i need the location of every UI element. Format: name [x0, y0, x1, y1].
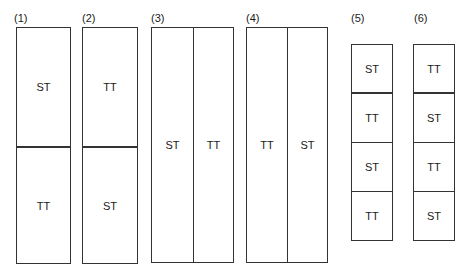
panel-2-cell-bottom: ST: [83, 148, 137, 263]
panel-6: TT ST TT ST: [413, 44, 455, 241]
panel-6-cell-1: TT: [414, 45, 454, 92]
panel-5: ST TT ST TT: [351, 44, 393, 241]
panel-6-cell-2: ST: [414, 94, 454, 142]
panel-4-cell-left: TT: [247, 28, 287, 262]
panel-3-label: (3): [151, 12, 164, 24]
panel-4-label: (4): [246, 12, 259, 24]
panel-3-cell-left: ST: [152, 28, 193, 262]
panel-5-cell-4: TT: [352, 192, 392, 240]
panel-6-label: (6): [414, 12, 427, 24]
panel-1: ST TT: [16, 27, 71, 264]
panel-2-cell-top: TT: [83, 28, 137, 146]
panel-1-cell-top: ST: [17, 28, 70, 146]
panel-6-cell-3: TT: [414, 143, 454, 191]
panel-1-label: (1): [14, 12, 27, 24]
panel-2: TT ST: [82, 27, 138, 264]
panel-2-label: (2): [82, 12, 95, 24]
panel-5-cell-3: ST: [352, 143, 392, 191]
panel-5-cell-1: ST: [352, 45, 392, 92]
panel-3-cell-right: TT: [194, 28, 233, 262]
panel-4-cell-right: ST: [288, 28, 327, 262]
panel-1-cell-bottom: TT: [17, 148, 70, 263]
panel-4: TT ST: [246, 27, 328, 263]
panel-5-label: (5): [351, 12, 364, 24]
panel-6-cell-4: ST: [414, 192, 454, 240]
panel-3: ST TT: [151, 27, 234, 263]
panel-5-cell-2: TT: [352, 94, 392, 142]
